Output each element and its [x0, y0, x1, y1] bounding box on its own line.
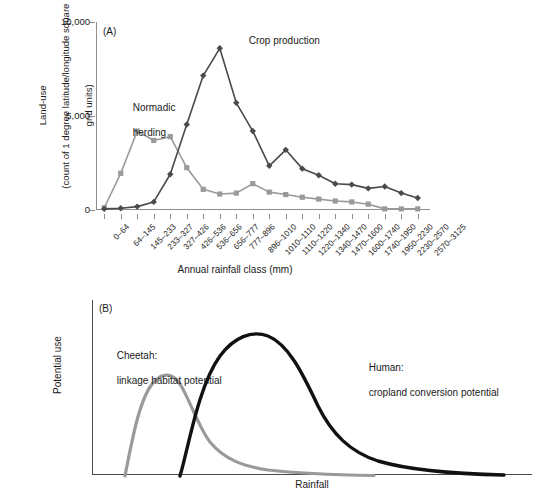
- x-tick-mark: [418, 214, 419, 219]
- data-point: [250, 181, 255, 186]
- y-tick-mark: [90, 210, 95, 211]
- panel-a-y-tick-labels: 05,00010,000: [36, 22, 90, 210]
- x-tick-mark: [286, 214, 287, 219]
- annotation-crop-line1: Crop production: [249, 35, 320, 46]
- data-point: [399, 206, 404, 211]
- data-point: [234, 190, 239, 195]
- data-point: [184, 121, 190, 127]
- annotation-cheetah: Cheetah: linkage habitat potential: [100, 337, 222, 400]
- annotation-human: Human: cropland conversion potential: [352, 349, 499, 412]
- data-point: [316, 197, 321, 202]
- x-tick-mark: [104, 214, 105, 219]
- x-tick-mark: [236, 214, 237, 219]
- x-tick-mark: [137, 214, 138, 219]
- x-tick-mark: [368, 214, 369, 219]
- panel-a-x-axis-title: Annual rainfall class (mm): [0, 264, 470, 276]
- x-tick-mark: [385, 214, 386, 219]
- data-point: [382, 183, 388, 189]
- panel-a-tag: (A): [103, 26, 116, 38]
- annotation-normadic-line2: herding: [133, 127, 166, 138]
- data-point: [382, 206, 387, 211]
- data-point: [134, 203, 140, 209]
- annotation-crop-production: Crop production: [232, 22, 320, 60]
- y-tick-mark: [90, 116, 95, 117]
- x-tick-mark: [319, 214, 320, 219]
- data-point: [349, 199, 354, 204]
- x-tick-mark: [220, 214, 221, 219]
- data-point: [398, 190, 404, 196]
- data-point: [217, 191, 222, 196]
- annotation-normadic-line1: Normadic: [133, 102, 176, 113]
- x-tick-mark: [352, 214, 353, 219]
- x-tick-mark: [253, 214, 254, 219]
- data-point: [233, 100, 239, 106]
- data-point: [250, 128, 256, 134]
- x-tick-mark: [401, 214, 402, 219]
- data-point: [267, 190, 272, 195]
- data-point: [333, 198, 338, 203]
- data-point: [415, 195, 421, 201]
- x-tick-mark: [154, 214, 155, 219]
- x-tick-mark: [170, 214, 171, 219]
- data-point: [349, 181, 355, 187]
- data-point: [118, 205, 124, 211]
- data-point: [316, 172, 322, 178]
- data-point: [365, 185, 371, 191]
- data-point: [332, 180, 338, 186]
- panel-a: Land-use (count of 1 degree latitude/lon…: [0, 0, 553, 280]
- x-tick-mark: [302, 214, 303, 219]
- data-point: [283, 192, 288, 197]
- data-point: [415, 206, 420, 211]
- data-point: [366, 202, 371, 207]
- x-tick-mark: [187, 214, 188, 219]
- data-point: [201, 187, 206, 192]
- panel-b-y-axis-title: Potential use: [52, 290, 64, 440]
- annotation-normadic-herding: Normadic herding: [116, 89, 175, 152]
- x-tick-mark: [269, 214, 270, 219]
- data-point: [184, 165, 189, 170]
- annotation-human-line2: cropland conversion potential: [369, 387, 499, 398]
- annotation-cheetah-line2: linkage habitat potential: [117, 375, 222, 386]
- figure-root: Land-use (count of 1 degree latitude/lon…: [0, 0, 553, 493]
- x-tick-mark: [121, 214, 122, 219]
- y-tick-mark: [90, 22, 95, 23]
- panel-b-tag: (B): [99, 303, 112, 315]
- data-point: [118, 171, 123, 176]
- y-tick-label: 10,000: [61, 16, 90, 27]
- data-point: [300, 195, 305, 200]
- x-tick-mark: [335, 214, 336, 219]
- panel-b-x-axis-title: Rainfall: [92, 479, 532, 491]
- x-tick-mark: [203, 214, 204, 219]
- annotation-cheetah-line1: Cheetah:: [117, 350, 158, 361]
- x-tick-label: 0–64: [112, 222, 132, 242]
- annotation-human-line1: Human:: [369, 362, 404, 373]
- panel-a-y-axis-title-group: Land-use (count of 1 degree latitude/lon…: [4, 22, 38, 210]
- y-tick-label: 5,000: [66, 110, 90, 121]
